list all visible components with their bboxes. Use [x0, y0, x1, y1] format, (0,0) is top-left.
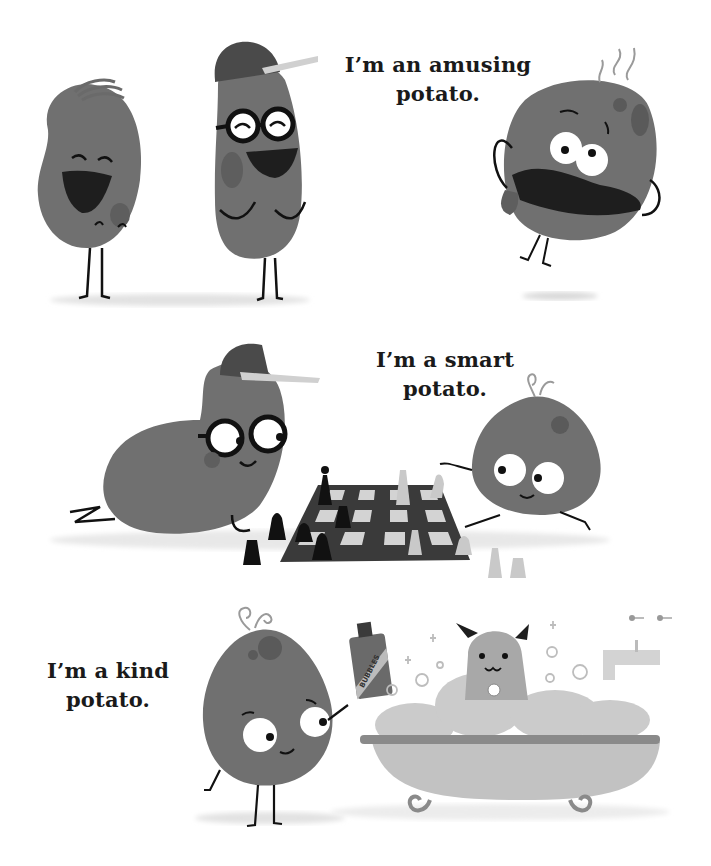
legs: [79, 248, 110, 298]
bubbles-bottle: BUBBLES: [347, 620, 393, 699]
curly-sprout-potato-playing-chess: [440, 374, 601, 530]
storybook-page: I’m an amusing potato. I’m a smart potat…: [0, 0, 711, 866]
scene-smart: [50, 344, 610, 578]
illustrations: BUBBLES: [0, 0, 711, 866]
clawfoot-bathtub: [360, 735, 660, 810]
ground-shadow: [50, 294, 310, 306]
laughing-potato-with-hair: [38, 80, 141, 298]
scene-kind: BUBBLES: [195, 608, 672, 826]
curly-sprout-potato-holding-bottle: [203, 608, 348, 826]
potato-with-cap-and-glasses-lying-down: [70, 344, 320, 534]
dog-in-bubble-bath: [456, 623, 529, 700]
scene-amusing: [38, 42, 660, 306]
silly-face-jumping-potato: [494, 48, 659, 300]
laughing-potato-with-cap-and-glasses: [215, 42, 318, 300]
faucet-icon: [603, 615, 672, 680]
